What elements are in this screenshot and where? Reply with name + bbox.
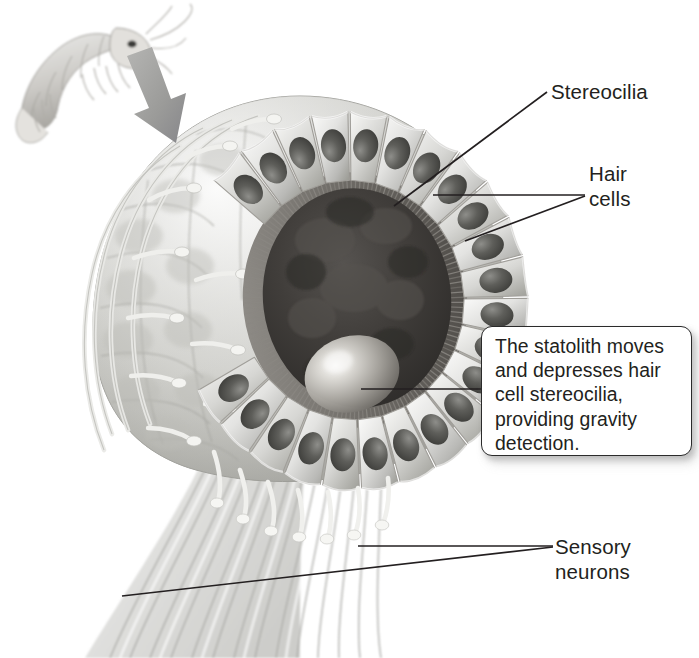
statolith-callout-box: The statolith moves and depresses hair c… [481,326,692,456]
label-stereocilia: Stereocilia [551,79,648,104]
magnification-arrow [127,47,186,143]
label-hair-cells: Hair cells [589,161,631,211]
statocyst-figure: Stereocilia Hair cells Sensory neurons T… [0,0,699,658]
label-sensory-neurons: Sensory neurons [555,534,631,584]
statolith-callout-text: The statolith moves and depresses hair c… [495,334,687,455]
